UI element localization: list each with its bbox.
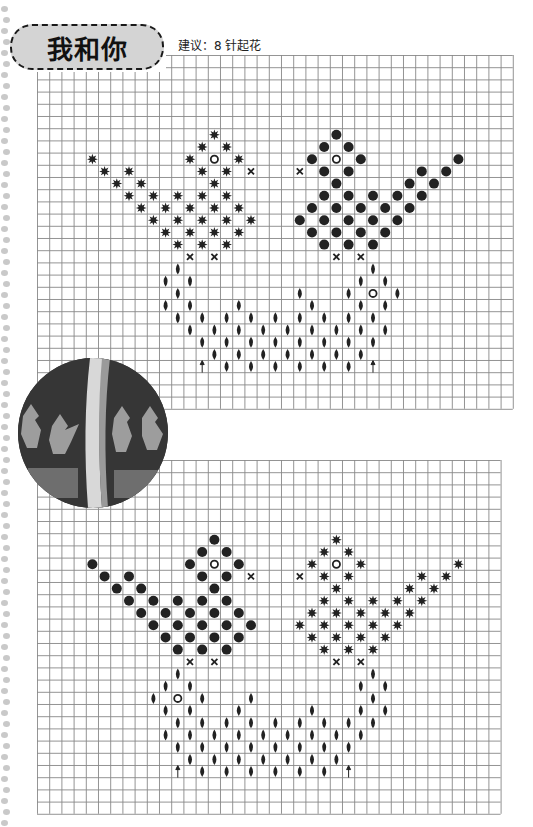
border-dot — [1, 314, 8, 320]
dot-stitch-icon — [246, 620, 256, 630]
star-stitch-icon — [368, 620, 379, 631]
bottom-knitting-chart — [37, 460, 502, 815]
border-dot — [3, 259, 10, 265]
diamond-stitch-icon — [200, 766, 204, 777]
border-dot — [1, 358, 8, 364]
star-stitch-icon — [343, 620, 354, 631]
diamond-stitch-icon — [249, 337, 253, 348]
dot-stitch-icon — [234, 608, 244, 618]
border-dot — [1, 490, 8, 496]
diamond-stitch-icon — [164, 729, 168, 740]
star-stitch-icon — [136, 178, 147, 189]
border-dot — [3, 171, 10, 177]
diamond-stitch-icon — [188, 300, 192, 311]
diamond-stitch-icon — [371, 263, 375, 274]
border-dot — [1, 270, 8, 276]
ring-stitch-icon — [333, 561, 340, 568]
star-stitch-icon — [221, 142, 232, 153]
diamond-stitch-icon — [225, 717, 229, 728]
dot-stitch-icon — [319, 215, 329, 225]
star-stitch-icon — [221, 190, 232, 201]
border-dot — [1, 94, 8, 100]
diamond-stitch-icon — [273, 312, 277, 323]
dot-stitch-icon — [136, 608, 146, 618]
star-stitch-icon — [172, 239, 183, 250]
diamond-stitch-icon — [383, 705, 387, 716]
diamond-stitch-icon — [322, 337, 326, 348]
border-dot — [3, 281, 10, 287]
diamond-stitch-icon — [298, 717, 302, 728]
star-stitch-icon — [124, 166, 135, 177]
diamond-stitch-icon — [237, 729, 241, 740]
diamond-stitch-icon — [371, 337, 375, 348]
border-dot — [1, 556, 8, 562]
diamond-stitch-icon — [334, 754, 338, 765]
diamond-stitch-icon — [249, 742, 253, 753]
border-dot — [3, 787, 10, 793]
star-stitch-icon — [233, 227, 244, 238]
border-dot — [1, 248, 8, 254]
dot-stitch-icon — [380, 227, 390, 237]
diamond-stitch-icon — [237, 349, 241, 360]
diamond-stitch-icon — [286, 754, 290, 765]
diamond-stitch-icon — [176, 263, 180, 274]
star-stitch-icon — [355, 608, 366, 619]
dot-stitch-icon — [429, 179, 439, 189]
star-stitch-icon — [209, 203, 220, 214]
dot-stitch-icon — [173, 596, 183, 606]
border-dot — [1, 578, 8, 584]
diamond-stitch-icon — [371, 312, 375, 323]
diamond-stitch-icon — [249, 312, 253, 323]
border-dot — [1, 446, 8, 452]
diamond-stitch-icon — [225, 742, 229, 753]
stitch-hint: 建议：8 针起花 — [178, 36, 261, 53]
border-dot — [1, 380, 8, 386]
dot-stitch-icon — [124, 596, 134, 606]
border-dot — [3, 633, 10, 639]
border-dot — [1, 138, 8, 144]
dot-stitch-icon — [307, 154, 317, 164]
diamond-stitch-icon — [225, 312, 229, 323]
border-dot — [3, 39, 10, 45]
arrow-up-icon — [371, 361, 375, 373]
border-dot — [3, 479, 10, 485]
border-dot — [3, 545, 10, 551]
border-dot — [1, 182, 8, 188]
border-dot — [3, 347, 10, 353]
dot-stitch-icon — [148, 596, 158, 606]
cross-stitch-icon — [358, 659, 364, 665]
border-dot — [1, 622, 8, 628]
diamond-stitch-icon — [164, 276, 168, 287]
diamond-stitch-icon — [212, 324, 216, 335]
border-dot — [1, 688, 8, 694]
diamond-stitch-icon — [334, 324, 338, 335]
diamond-stitch-icon — [359, 681, 363, 692]
star-stitch-icon — [148, 215, 159, 226]
diamond-stitch-icon — [383, 276, 387, 287]
border-dot — [1, 468, 8, 474]
star-stitch-icon — [319, 547, 330, 558]
diamond-stitch-icon — [249, 717, 253, 728]
diamond-stitch-icon — [298, 742, 302, 753]
dot-stitch-icon — [209, 535, 219, 545]
border-dot — [3, 699, 10, 705]
border-dot — [3, 765, 10, 771]
diamond-stitch-icon — [310, 324, 314, 335]
border-dot — [1, 534, 8, 540]
diamond-stitch-icon — [310, 300, 314, 311]
star-stitch-icon — [307, 632, 318, 643]
border-dot — [3, 567, 10, 573]
border-dot — [3, 743, 10, 749]
border-dot — [3, 457, 10, 463]
star-stitch-icon — [380, 608, 391, 619]
diamond-stitch-icon — [273, 361, 277, 372]
diamond-stitch-icon — [188, 729, 192, 740]
dot-stitch-icon — [344, 215, 354, 225]
star-stitch-icon — [136, 203, 147, 214]
border-dot — [3, 809, 10, 815]
star-stitch-icon — [246, 215, 257, 226]
border-dot — [1, 644, 8, 650]
diamond-stitch-icon — [273, 717, 277, 728]
diamond-stitch-icon — [237, 754, 241, 765]
dot-stitch-icon — [368, 191, 378, 201]
